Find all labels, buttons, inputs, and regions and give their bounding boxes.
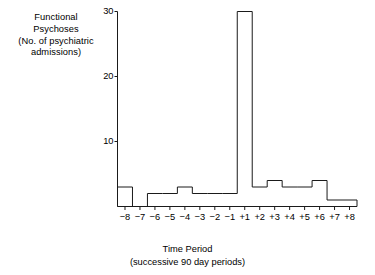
x-axis-label-line-1: Time Period <box>0 243 375 256</box>
x-tick-marks <box>125 207 350 211</box>
chart-figure: Functional Psychoses (No. of psychiatric… <box>0 0 375 275</box>
plot-area <box>0 0 375 275</box>
x-tick-label-+8: +8 <box>341 213 359 222</box>
x-axis-label: Time Period (successive 90 day periods) <box>0 243 375 268</box>
histogram-outline <box>118 12 358 207</box>
x-axis-label-line-2: (successive 90 day periods) <box>0 256 375 269</box>
